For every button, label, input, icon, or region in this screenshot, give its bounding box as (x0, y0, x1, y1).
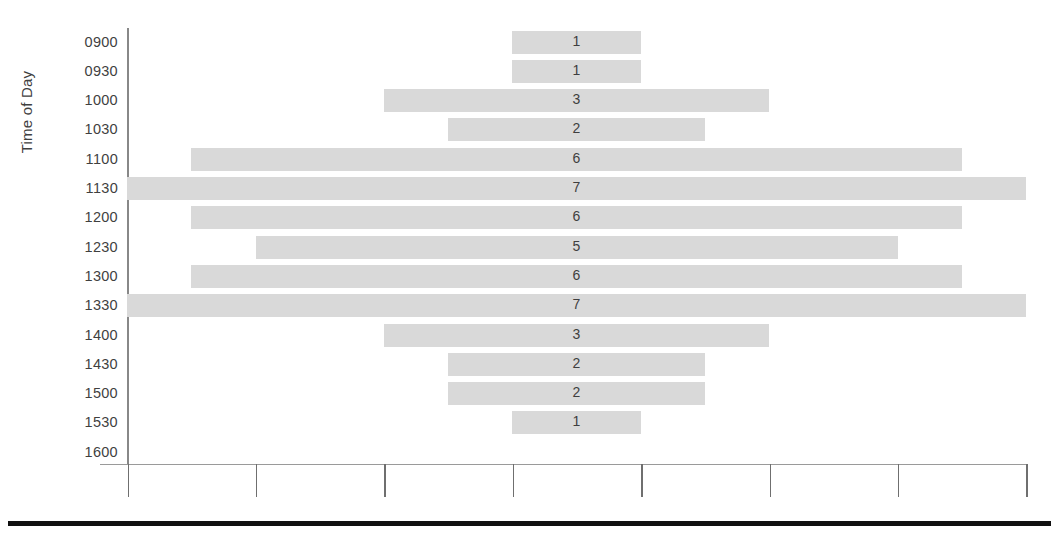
bar-row: 13006 (0, 262, 1059, 292)
bar-row: 14302 (0, 350, 1059, 380)
bar-row: 12006 (0, 203, 1059, 233)
y-axis-tick-label: 1530 (40, 414, 118, 430)
bar-value-label: 2 (557, 384, 597, 400)
bar-row: 1600 (0, 438, 1059, 468)
x-axis-tick (513, 464, 515, 497)
bar-value-label: 6 (557, 150, 597, 166)
y-axis-tick-label: 1100 (40, 151, 118, 167)
bar-value-label: 2 (557, 355, 597, 371)
bar-value-label: 3 (557, 91, 597, 107)
y-axis-tick-label: 1300 (40, 268, 118, 284)
y-axis-tick-label: 1230 (40, 239, 118, 255)
bottom-rule (8, 521, 1051, 526)
y-axis-tick-label: 1030 (40, 121, 118, 137)
bar-row: 15002 (0, 379, 1059, 409)
bar-value-label: 7 (557, 179, 597, 195)
bar-row: 09301 (0, 57, 1059, 87)
y-axis-tick-label: 1500 (40, 385, 118, 401)
y-axis-tick-label: 1000 (40, 92, 118, 108)
bar-value-label: 6 (557, 208, 597, 224)
bar-value-label: 5 (557, 238, 597, 254)
y-axis-tick-label: 1400 (40, 327, 118, 343)
x-axis-tick (898, 464, 900, 497)
x-axis-tick (384, 464, 386, 497)
x-axis-tick (1026, 464, 1028, 497)
y-axis-tick-label: 0930 (40, 63, 118, 79)
y-axis-tick-label: 1200 (40, 209, 118, 225)
plot-area: 0900109301100031030211006113071200612305… (0, 0, 1059, 543)
x-axis-tick (128, 464, 130, 497)
bar-row: 13307 (0, 291, 1059, 321)
x-axis-tick (641, 464, 643, 497)
bar-row: 10302 (0, 115, 1059, 145)
y-axis-tick-label: 1430 (40, 356, 118, 372)
y-axis-tick-label: 1600 (40, 444, 118, 460)
bar-value-label: 3 (557, 326, 597, 342)
bar-row: 15301 (0, 408, 1059, 438)
bar-value-label: 7 (557, 296, 597, 312)
bar-value-label: 6 (557, 267, 597, 283)
bar-value-label: 1 (557, 33, 597, 49)
y-axis-tick-label: 1330 (40, 297, 118, 313)
bar-value-label: 1 (557, 62, 597, 78)
bar-row: 12305 (0, 233, 1059, 263)
bar-row: 11006 (0, 145, 1059, 175)
bar-value-label: 1 (557, 413, 597, 429)
bar-row: 10003 (0, 86, 1059, 116)
y-axis-tick-label: 1130 (40, 180, 118, 196)
x-axis-tick (256, 464, 258, 497)
bar-row: 09001 (0, 28, 1059, 58)
bar-chart: Time of Day 0900109301100031030211006113… (0, 0, 1059, 543)
bar-row: 11307 (0, 174, 1059, 204)
bar-row: 14003 (0, 321, 1059, 351)
bar-value-label: 2 (557, 120, 597, 136)
x-axis-tick (770, 464, 772, 497)
y-axis-tick-label: 0900 (40, 34, 118, 50)
